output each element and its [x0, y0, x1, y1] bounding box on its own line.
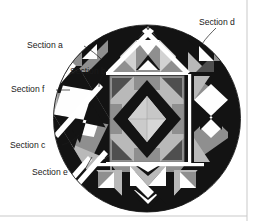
center-block [110, 76, 184, 162]
figure-canvas: Section a Section b Section c Section d … [0, 0, 256, 221]
label-section-d: Section d [199, 17, 235, 27]
label-section-e: Section e [32, 167, 68, 177]
right-side-panel [188, 74, 228, 164]
label-section-a: Section a [27, 40, 63, 50]
label-section-c: Section c [10, 140, 46, 150]
label-section-b: Section b [70, 66, 106, 76]
quilt-diagram: Section a Section b Section c Section d … [0, 0, 256, 221]
label-section-f: Section f [11, 84, 45, 94]
